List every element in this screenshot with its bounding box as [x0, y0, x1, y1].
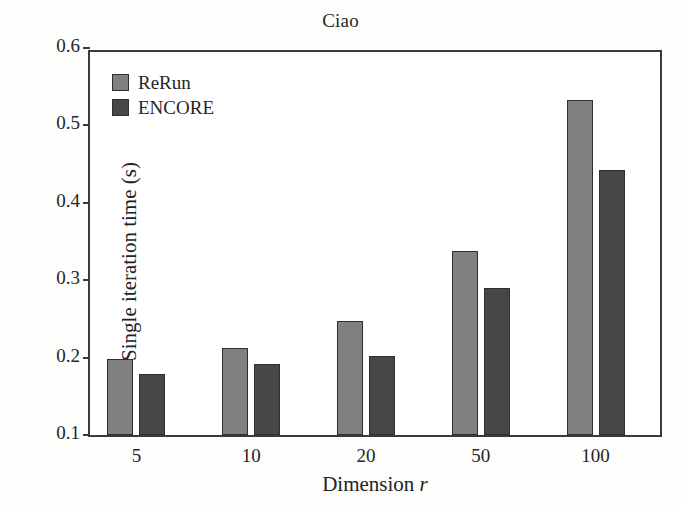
- legend-swatch-encore: [112, 99, 129, 116]
- chart-title: Ciao: [0, 10, 681, 32]
- bar-encore-20: [369, 356, 395, 435]
- y-tick-mark: [83, 124, 90, 126]
- y-tick-mark: [83, 202, 90, 204]
- x-axis-label-variable: r: [420, 472, 428, 496]
- legend-item-rerun: ReRun: [112, 70, 214, 95]
- y-tick-label: 0.2: [56, 345, 80, 367]
- y-tick-label: 0.5: [56, 112, 80, 134]
- y-tick-mark: [83, 357, 90, 359]
- x-tick-label: 5: [132, 445, 142, 467]
- y-tick-label: 0.4: [56, 190, 80, 212]
- x-axis-label-text: Dimension: [322, 472, 414, 496]
- x-tick-label: 100: [581, 445, 610, 467]
- x-tick-label: 50: [471, 445, 490, 467]
- legend-label-encore: ENCORE: [138, 98, 214, 117]
- chart-legend: ReRun ENCORE: [112, 70, 214, 120]
- y-tick-label: 0.6: [56, 35, 80, 57]
- chart-figure: Ciao Single iteration time (s) 0.10.20.3…: [0, 0, 681, 505]
- bar-rerun-5: [107, 359, 133, 435]
- x-tick-label: 20: [357, 445, 376, 467]
- bar-encore-10: [254, 364, 280, 435]
- y-tick-mark: [83, 279, 90, 281]
- y-tick-label: 0.1: [56, 422, 80, 444]
- bar-encore-100: [599, 170, 625, 435]
- bar-rerun-100: [567, 100, 593, 435]
- x-tick-label: 10: [242, 445, 261, 467]
- legend-swatch-rerun: [112, 74, 129, 91]
- bar-rerun-10: [222, 348, 248, 435]
- bar-encore-50: [484, 288, 510, 435]
- plot-area: Single iteration time (s) 0.10.20.30.40.…: [88, 50, 662, 437]
- y-tick-mark: [83, 434, 90, 436]
- bar-rerun-20: [337, 321, 363, 435]
- legend-item-encore: ENCORE: [112, 95, 214, 120]
- bar-encore-5: [139, 374, 165, 435]
- y-tick-label: 0.3: [56, 267, 80, 289]
- bar-rerun-50: [452, 251, 478, 435]
- x-axis-label: Dimension r: [88, 472, 662, 497]
- legend-label-rerun: ReRun: [138, 73, 191, 92]
- y-tick-mark: [83, 47, 90, 49]
